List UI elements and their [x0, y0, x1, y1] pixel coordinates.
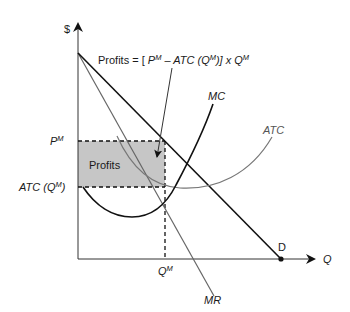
demand-label: D [278, 241, 286, 253]
quantity-label: QM [158, 264, 174, 277]
monopoly-profit-diagram: $ Q D MC ATC MR Profits PM ATC (QM) QM P… [0, 0, 350, 312]
y-axis-label: $ [64, 23, 70, 35]
atc-label: ATC [262, 124, 284, 136]
mc-label: MC [208, 90, 225, 102]
demand-intercept-point [278, 256, 283, 261]
cost-label: ATC (QM) [18, 180, 66, 193]
profit-area-label: Profits [89, 159, 121, 171]
price-label: PM [50, 134, 64, 147]
mr-label: MR [204, 294, 221, 306]
profit-formula: Profits = [ PM – ATC (QM)] x QM [98, 53, 250, 66]
x-axis-label: Q [323, 253, 332, 265]
